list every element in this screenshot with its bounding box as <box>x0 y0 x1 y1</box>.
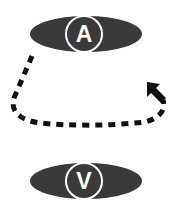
top-node: A <box>30 16 142 52</box>
arrow-head-icon <box>147 82 166 103</box>
bottom-node: V <box>30 163 142 199</box>
top-node-label: A <box>76 21 93 47</box>
dashed-arrow <box>13 56 166 125</box>
diagram-canvas: A V <box>0 0 180 214</box>
bottom-node-label: V <box>76 168 92 194</box>
